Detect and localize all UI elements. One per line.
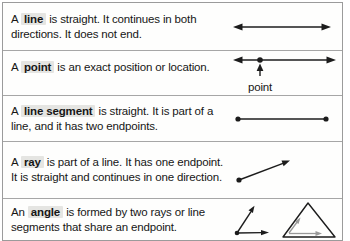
term-line: line [21, 13, 46, 25]
angle-rays-icon [233, 202, 273, 238]
segment-definition-text: A line segment is straight. It is part o… [3, 104, 231, 134]
definition-row-ray: A ray is part of a line. It has one endp… [3, 142, 342, 199]
definition-pre: A [11, 13, 18, 25]
term-line-segment: line segment [21, 105, 96, 117]
point-definition-text: A point is an exact position or location… [3, 51, 231, 75]
definition-pre: A [11, 61, 18, 73]
point-diagram: point [231, 51, 342, 95]
line-segment-icon [233, 113, 331, 125]
line-diagram [231, 19, 342, 35]
definition-pre: A [11, 105, 18, 117]
definition-row-point: A point is an exact position or location… [3, 51, 342, 96]
term-angle: angle [28, 206, 63, 218]
definition-pre: An [11, 206, 25, 218]
segment-diagram [231, 113, 342, 125]
definition-row-line: A line is straight. It continues in both… [3, 3, 342, 51]
point-dot [257, 57, 263, 63]
line-with-point-icon: point [233, 54, 336, 95]
term-ray: ray [21, 156, 44, 168]
angle-diagram [231, 200, 342, 240]
segment-endpoint-left [235, 116, 240, 121]
segment-endpoint-right [323, 116, 328, 121]
definition-post: is an exact position or location. [57, 61, 209, 73]
term-point: point [21, 61, 54, 73]
ray-definition-text: A ray is part of a line. It has one endp… [3, 155, 231, 185]
ray-diagram [231, 154, 342, 186]
definitions-chart: A line is straight. It continues in both… [2, 2, 343, 241]
definition-row-angle: An angle is formed by two rays or line s… [3, 199, 342, 241]
double-arrow-line-icon [233, 19, 331, 35]
line-definition-text: A line is straight. It continues in both… [3, 12, 231, 42]
angle-definition-text: An angle is formed by two rays or line s… [3, 205, 231, 235]
definition-pre: A [11, 156, 18, 168]
point-label: point [248, 81, 273, 93]
ray-icon [233, 154, 297, 186]
triangle-angles-icon [280, 200, 338, 240]
definition-row-segment: A line segment is straight. It is part o… [3, 96, 342, 142]
